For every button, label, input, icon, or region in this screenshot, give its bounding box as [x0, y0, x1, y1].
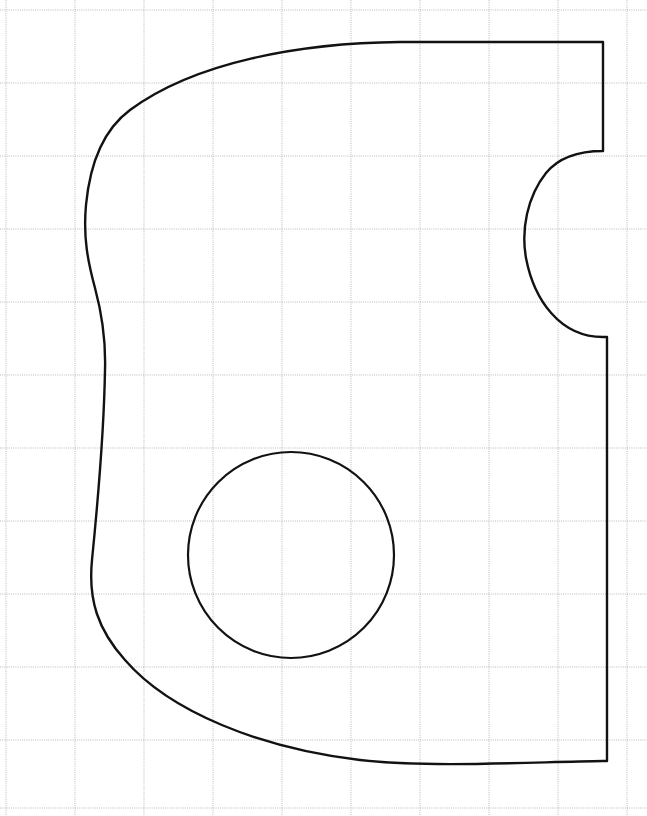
drawing-canvas [0, 0, 647, 816]
canvas-background [0, 0, 647, 816]
technical-drawing [0, 0, 647, 816]
